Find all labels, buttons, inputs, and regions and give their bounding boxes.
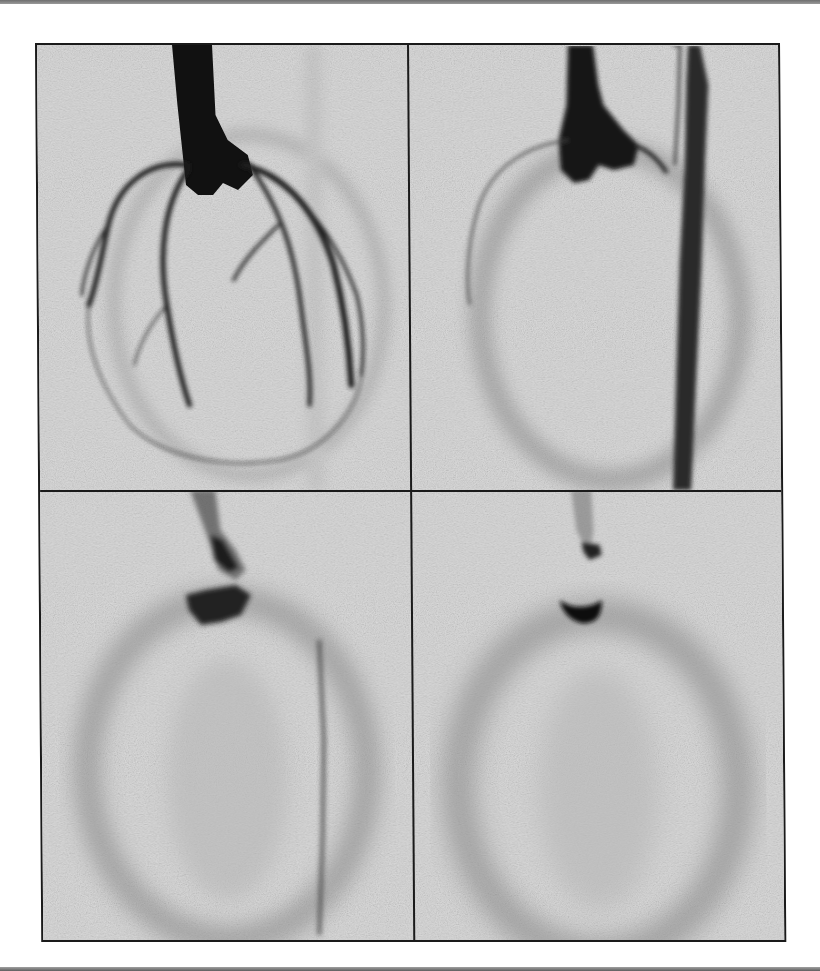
angiogram-top-left-image <box>37 45 411 490</box>
horizontal-divider <box>40 490 781 492</box>
angiogram-bottom-right-image <box>411 490 784 940</box>
panel-top-left <box>37 45 411 490</box>
bottom-edge-bar <box>0 967 820 971</box>
figure-frame <box>35 43 786 942</box>
panel-bottom-left <box>40 490 414 940</box>
panel-top-right <box>408 45 781 490</box>
top-edge-bar <box>0 0 820 4</box>
angiogram-top-right-image <box>408 45 781 490</box>
angiogram-bottom-left-image <box>40 490 414 940</box>
panel-bottom-right <box>411 490 784 940</box>
